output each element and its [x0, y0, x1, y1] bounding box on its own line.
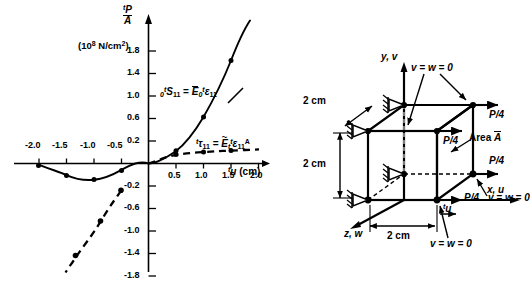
y-tick-label-0.2: 0.2	[127, 136, 140, 145]
y-axis-title: tP A	[123, 4, 132, 26]
load-label-p4-2: P/4	[443, 136, 458, 146]
curve-label-S11: 0tS11 = E0tε11	[160, 86, 217, 98]
tau11-eps-sup: A	[245, 138, 250, 145]
curve-dashed-tau11-lower	[66, 191, 122, 273]
y-axis-units-prefix: (10	[78, 40, 92, 51]
bc-label-top: v = w = 0	[411, 63, 453, 73]
y-axis-den: A	[124, 16, 131, 26]
y-tick-label--0.6: -0.6	[124, 203, 140, 212]
x-tick-label-1.0: 1.0	[195, 171, 208, 180]
area-symbol: A	[494, 133, 501, 143]
y-tick-label--1.4: -1.4	[124, 248, 140, 257]
area-label: Area A	[469, 133, 501, 143]
y-axis-units-suffix: )	[125, 40, 128, 51]
cube-nodes	[365, 102, 477, 204]
dim-left-2cm	[333, 133, 352, 198]
y-tick-label-1.4: 1.4	[127, 68, 140, 77]
tau11-eq: =	[213, 138, 219, 149]
S11-eps-sub: 11	[209, 91, 216, 98]
y-tick-label--1.0: -1.0	[124, 226, 140, 235]
dim-label-left: 2 cm	[303, 159, 326, 169]
load-label-p4-3: P/4	[489, 156, 504, 166]
x-tick-label--1.0: -1.0	[80, 141, 96, 150]
dim-label-top: 2 cm	[303, 96, 326, 106]
y-tick-label--1.8: -1.8	[124, 271, 140, 280]
x-tick-label--2.0: -2.0	[25, 141, 41, 150]
load-label-p4-1: P/4	[489, 110, 504, 120]
y-tick-label--0.2: -0.2	[124, 181, 140, 190]
y-tick-label-0.6: 0.6	[127, 113, 140, 122]
S11-eq: =	[183, 86, 189, 97]
x-tick-label--1.5: -1.5	[52, 141, 68, 150]
cube-global-axes	[350, 62, 520, 229]
cube-axis-label-y: y, v	[381, 52, 397, 62]
axis-z-text: z, w	[344, 228, 362, 239]
x-axis-units: (cm)	[239, 166, 260, 177]
curve-label-tau11: tτ11 = Ettε11A	[196, 138, 250, 150]
S11-E: E	[192, 87, 199, 97]
x-axis-title: tu (cm)	[228, 166, 260, 177]
y-tick-label-1.0: 1.0	[127, 91, 140, 100]
S11-sub: 11	[173, 91, 180, 98]
x-tick-label-0.5: 0.5	[168, 171, 181, 180]
cube-edges-visible	[368, 105, 473, 200]
y-axis-units-text: N/cm	[98, 40, 121, 51]
y-axis-units-exp: 8	[92, 40, 96, 47]
disp-sym: u	[445, 203, 451, 214]
bc-label-right: v = w = 0	[488, 193, 530, 203]
curve-solid-S11	[39, 21, 251, 181]
tau11-sub: 11	[202, 143, 209, 150]
tau11-E: E	[221, 139, 228, 149]
dim-label-bottom: 2 cm	[387, 231, 410, 241]
cube-axis-label-z: z, w	[344, 229, 362, 239]
y-tick-label-1.8: 1.8	[127, 46, 140, 55]
x-tick-label--0.5: -0.5	[107, 141, 123, 150]
dim-top-2cm	[345, 106, 372, 126]
S11-sym: S	[166, 86, 173, 97]
displacement-label: tu	[443, 203, 451, 214]
area-word: Area	[469, 132, 494, 143]
dim-bottom-2cm	[370, 205, 437, 232]
x-axis-sym: u	[230, 166, 236, 177]
bc-label-bottom: v = w = 0	[430, 239, 472, 249]
axis-y-text: y, v	[381, 51, 397, 62]
cube-diagram	[333, 62, 520, 238]
load-label-p4-4: P/4	[464, 193, 479, 203]
y-axis-units: (108 N/cm2)	[78, 40, 129, 51]
curve-dashed-lower-markers	[73, 188, 124, 259]
solid-label-leader	[228, 88, 243, 103]
tau11-eps-sub: 11	[237, 143, 244, 150]
y-axis-num: P	[125, 4, 132, 15]
